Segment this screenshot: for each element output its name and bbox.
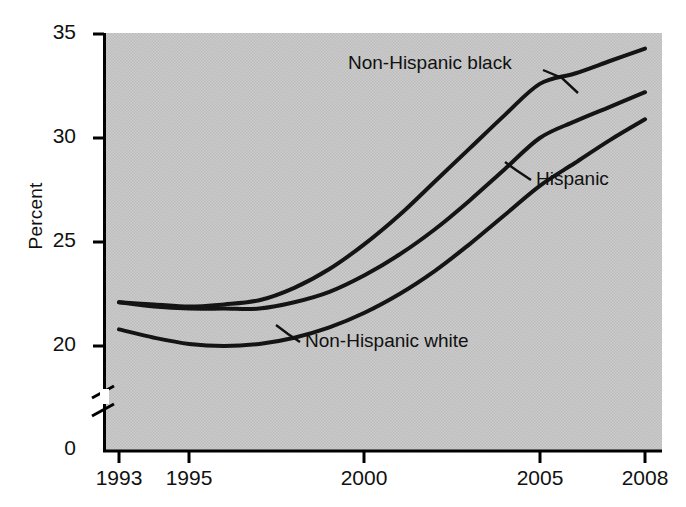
x-tick-label-2000: 2000 — [324, 466, 404, 490]
plot-background — [103, 33, 662, 450]
y-axis-label: Percent — [25, 156, 47, 276]
x-tick-label-2008: 2008 — [605, 466, 685, 490]
y-tick-label-25: 25 — [30, 228, 76, 252]
x-tick-label-2005: 2005 — [500, 466, 580, 490]
series-label-non-hispanic-white: Non-Hispanic white — [305, 330, 469, 352]
x-tick-label-1993: 1993 — [79, 466, 159, 490]
series-label-non-hispanic-black: Non-Hispanic black — [348, 52, 512, 74]
series-label-hispanic: Hispanic — [536, 168, 609, 190]
axis-break-gap — [100, 389, 109, 404]
y-tick-label-20: 20 — [30, 332, 76, 356]
y-tick-label-0: 0 — [30, 436, 76, 460]
x-tick-label-1995: 1995 — [149, 466, 229, 490]
y-tick-label-35: 35 — [30, 20, 76, 44]
chart-figure: Percent 35 30 25 20 0 1993 1995 2000 200… — [0, 0, 686, 507]
chart-canvas — [0, 0, 686, 507]
y-tick-label-30: 30 — [30, 124, 76, 148]
